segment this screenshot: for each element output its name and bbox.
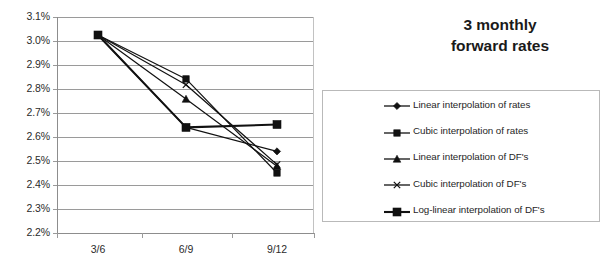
chart-screenshot: 3.1%3.0%2.9%2.8%2.7%2.6%2.5%2.4%2.3%2.2%… <box>0 0 616 264</box>
series-line <box>98 35 277 151</box>
data-point-marker <box>273 148 280 155</box>
y-axis-tick-label: 2.5% <box>8 154 50 166</box>
diamond-marker <box>383 98 411 110</box>
y-axis-tick-label: 2.7% <box>8 106 50 118</box>
data-point-marker <box>182 123 190 131</box>
y-axis-tick-label: 2.4% <box>8 178 50 190</box>
y-axis-tick-label: 3.1% <box>8 10 50 22</box>
legend-entry[interactable]: Cubic interpolation of rates <box>383 122 601 140</box>
legend-entry-label: Cubic interpolation of rates <box>413 125 528 136</box>
legend-entry-list: Linear interpolation of ratesCubic inter… <box>383 91 601 223</box>
chart-title: 3 monthly forward rates <box>392 14 608 56</box>
y-axis-tick-label: 2.6% <box>8 130 50 142</box>
x-marker <box>383 177 411 189</box>
data-point-marker <box>183 76 189 82</box>
data-point-marker <box>94 31 102 39</box>
legend-entry[interactable]: Linear interpolation of rates <box>383 95 601 113</box>
legend-entry-label: Log-linear interpolation of DF's <box>413 204 545 215</box>
series-lines-group <box>98 35 277 173</box>
square-marker <box>383 125 411 137</box>
legend-entry[interactable]: Linear interpolation of DF's <box>383 148 601 166</box>
y-axis-tick-label: 2.3% <box>8 202 50 214</box>
data-point-marker <box>393 103 400 110</box>
data-point-marker <box>274 170 280 176</box>
x-axis-tick-label: 6/9 <box>156 243 216 255</box>
data-point-marker <box>273 121 281 129</box>
legend-entry[interactable]: Log-linear interpolation of DF's <box>383 201 601 219</box>
data-point-marker <box>182 95 190 102</box>
y-axis-tick-label: 2.8% <box>8 82 50 94</box>
chart-title-line-1: 3 monthly <box>392 14 608 35</box>
legend-entry[interactable]: Cubic interpolation of DF's <box>383 174 601 192</box>
data-point-marker <box>183 81 189 87</box>
chart-plot-region: 3.1%3.0%2.9%2.8%2.7%2.6%2.5%2.4%2.3%2.2%… <box>0 0 320 264</box>
y-axis-tick-label: 3.0% <box>8 34 50 46</box>
data-point-marker <box>394 129 400 135</box>
y-axis-tick-label: 2.2% <box>8 226 50 238</box>
x-axis-tick-label: 9/12 <box>247 243 307 255</box>
series-line <box>98 35 277 173</box>
legend-entry-label: Cubic interpolation of DF's <box>413 178 526 189</box>
data-point-marker <box>393 208 401 216</box>
x-axis-tick-label: 3/6 <box>68 243 128 255</box>
legend-entry-label: Linear interpolation of DF's <box>413 151 528 162</box>
y-axis-tick-label: 2.9% <box>8 58 50 70</box>
data-point-marker <box>273 162 281 169</box>
legend-entry-label: Linear interpolation of rates <box>413 99 530 110</box>
triangle-marker <box>383 151 411 163</box>
chart-legend: Linear interpolation of ratesCubic inter… <box>322 90 600 222</box>
bold-square-marker <box>383 204 411 216</box>
chart-title-line-2: forward rates <box>392 35 608 56</box>
